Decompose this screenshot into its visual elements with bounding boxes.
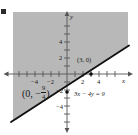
x-axis	[6, 71, 130, 77]
y-tick-label--4: −4	[56, 104, 63, 111]
point-x-intercept-dot	[89, 72, 93, 76]
point-label-x-intercept: (3, 0)	[77, 57, 91, 64]
figure-container: x y −4 −2 2 4 4 2 −2 −4 (3, 0) (0, −94) …	[0, 0, 138, 135]
y-tick-label-2: 2	[59, 55, 62, 62]
point-y-intercept-dot	[65, 90, 69, 94]
y-axis-label: y	[70, 14, 73, 21]
point-label-y-intercept: (0, −94)	[22, 85, 50, 100]
coordinate-axes-and-line	[0, 0, 138, 135]
boundary-line	[11, 46, 129, 123]
y-axis	[64, 14, 70, 130]
x-axis-label: x	[122, 78, 125, 85]
point-label-open: (0, −	[22, 89, 41, 99]
y-tick-label--2: −2	[56, 88, 63, 95]
point-label-close: )	[46, 89, 49, 99]
x-tick-label-2: 2	[81, 79, 84, 86]
x-tick-label-4: 4	[97, 79, 100, 86]
y-tick-label-4: 4	[59, 39, 62, 46]
equation-label: 3x − 4y = 9	[74, 91, 105, 98]
